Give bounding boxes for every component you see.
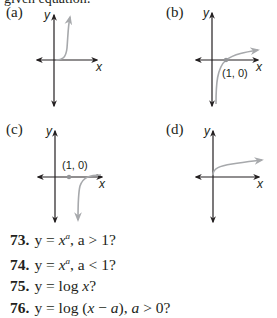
x-axis-label: x [95,60,103,74]
point-1-0 [67,175,71,179]
question-number: 73. [10,231,29,248]
question-74: 74.y = xa, a < 1? [10,251,170,276]
question-75: 75.y = log x? [10,275,170,297]
x-axis-label: x [255,60,263,74]
graph-d: y x [196,124,264,222]
question-text: y = log (x − a), a > 0? [34,299,170,316]
question-76: 76.y = log (x − a), a > 0? [10,297,170,318]
point-label: (1, 0) [62,159,88,171]
curve [78,175,101,220]
graph-c: y x (1, 0) [38,124,106,222]
question-number: 75. [10,277,29,294]
curve [56,17,70,60]
curve [213,160,262,175]
question-73: 73.y = xa, a > 1? [10,226,170,251]
y-axis-label: y [203,124,211,138]
question-number: 74. [10,256,29,273]
point-label: (1, 0) [222,67,248,79]
question-number: 76. [10,299,29,316]
y-axis-label: y [202,6,210,20]
y-axis-label: y [45,124,53,138]
x-axis-label: x [98,177,106,191]
point-1-0 [224,58,228,62]
question-list: 73.y = xa, a > 1? 74.y = xa, a < 1? 75.y… [10,226,170,318]
graph-a: y x [37,8,103,106]
y-axis-label: y [43,8,51,22]
question-text: y = log x? [34,277,96,294]
question-text: y = xa, a > 1? [34,231,115,248]
graph-b: y x (1, 0) [196,6,263,106]
x-axis-label: x [256,177,264,191]
question-text: y = xa, a < 1? [34,256,115,273]
